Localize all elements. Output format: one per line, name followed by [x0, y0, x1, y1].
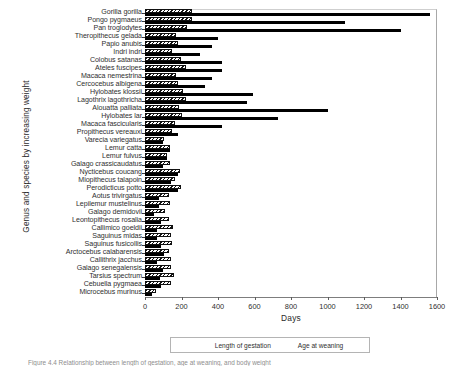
weaning-bar [145, 77, 212, 80]
weaning-bar [145, 109, 328, 112]
x-axis-tick [291, 297, 292, 300]
x-axis-tick-label: 600 [248, 302, 260, 311]
table-row: Lagothrix lagothricha [145, 97, 437, 105]
table-row: Miopithecus talapoin [145, 177, 437, 185]
weaning-bar [145, 293, 152, 296]
weaning-bar [145, 181, 171, 184]
weaning-bar [145, 277, 160, 280]
weaning-bar [145, 141, 163, 144]
x-axis-tick [364, 297, 365, 300]
weaning-bar [145, 133, 178, 136]
x-axis-title: Days [145, 313, 437, 323]
weaning-bar [145, 29, 401, 32]
x-axis-tick-label: 1200 [356, 302, 372, 311]
weaning-bar [145, 13, 430, 16]
x-axis-tick-label: 1600 [429, 302, 445, 311]
x-axis-tick [218, 297, 219, 300]
table-row: Leontopithecus rosalia [145, 217, 437, 225]
weaning-bar [145, 101, 247, 104]
x-axis-tick [182, 297, 183, 300]
solid-black-swatch [280, 342, 295, 349]
x-axis-tick-label: 800 [285, 302, 297, 311]
table-row: Cebuella pygmaea [145, 281, 437, 289]
table-row: Papio anubis [145, 41, 437, 49]
bar-rows: Gorilla gorillaPongo pygmaeusPan troglod… [145, 9, 437, 297]
x-axis-tick [255, 297, 256, 300]
table-row: Aotus trivirgatus [145, 193, 437, 201]
x-axis-tick-label: 200 [175, 302, 187, 311]
weaning-bar [145, 237, 157, 240]
table-row: Callithrix jacchus [145, 257, 437, 265]
weaning-bar [145, 37, 218, 40]
weaning-bar [145, 21, 345, 24]
x-axis-tick-label: 0 [143, 302, 147, 311]
table-row: Tarsius spectrum [145, 273, 437, 281]
plot-area: Gorilla gorillaPongo pygmaeusPan troglod… [145, 9, 437, 297]
table-row: Callimico goeldii [145, 225, 437, 233]
table-row: Lepilemur mustelinus [145, 201, 437, 209]
table-row: Ateles fuscipes [145, 65, 437, 73]
table-row: Colobus satanas [145, 57, 437, 65]
table-row: Pongo pygmaeus [145, 17, 437, 25]
legend-label: Age at weaning [298, 342, 343, 349]
x-axis-tick [401, 297, 402, 300]
table-row: Gorilla gorilla [145, 9, 437, 17]
weaning-bar [145, 205, 159, 208]
table-row: Galago senegalensis [145, 265, 437, 273]
legend-label: Length of gestation [215, 342, 271, 349]
y-axis-title: Genus and species by increasing weight [22, 57, 31, 257]
table-row: Theropithecus gelada [145, 33, 437, 41]
table-row: Hylobates klossii [145, 89, 437, 97]
x-axis-tick [437, 297, 438, 300]
table-row: Cercocebus albigena [145, 81, 437, 89]
weaning-bar [145, 125, 222, 128]
weaning-bar [145, 53, 200, 56]
weaning-bar [145, 261, 157, 264]
x-axis-tick [328, 297, 329, 300]
table-row: Macaca nemestrina [145, 73, 437, 81]
hatched-swatch [197, 342, 212, 349]
table-row: Galago crassicaudatus [145, 161, 437, 169]
table-row: Propithecus vereauxi [145, 129, 437, 137]
weaning-bar [145, 117, 278, 120]
table-row: Lemur catta [145, 145, 437, 153]
table-row: Macaca fascicularis [145, 121, 437, 129]
table-row: Perodicticus potto [145, 185, 437, 193]
weaning-bar [145, 165, 163, 168]
legend-item: Length of gestation [197, 342, 271, 349]
weaning-bar [145, 213, 154, 216]
table-row: Indri indri [145, 49, 437, 57]
y-axis-tick-label: Microcebus murinus [79, 289, 142, 296]
legend-item: Age at weaning [280, 342, 343, 349]
figure-container: Genus and species by increasing weight G… [0, 0, 456, 368]
table-row: Arctocebus calabarensis [145, 249, 437, 257]
table-row: Hylobates lar [145, 113, 437, 121]
weaning-bar [145, 269, 163, 272]
weaning-bar [145, 93, 253, 96]
x-axis-tick-label: 1400 [392, 302, 408, 311]
weaning-bar [145, 61, 222, 64]
weaning-bar [145, 285, 161, 288]
weaning-bar [145, 253, 164, 256]
x-axis-tick-label: 400 [212, 302, 224, 311]
table-row: Nycticebus coucang [145, 169, 437, 177]
weaning-bar [145, 221, 161, 224]
weaning-bar [145, 189, 178, 192]
weaning-bar [145, 173, 178, 176]
table-row: Varecia variegatus [145, 137, 437, 145]
weaning-bar [145, 69, 222, 72]
weaning-bar [145, 245, 161, 248]
chart-legend: Length of gestationAge at weaning [170, 337, 370, 353]
weaning-bar [145, 157, 167, 160]
x-axis-tick [145, 297, 146, 300]
table-row: Saguinus fusicollis [145, 241, 437, 249]
weaning-bar [145, 229, 157, 232]
table-row: Saguinus midas [145, 233, 437, 241]
weaning-bar [145, 45, 212, 48]
x-axis-tick-label: 1000 [319, 302, 335, 311]
table-row: Alouatta palliata [145, 105, 437, 113]
weaning-bar [145, 197, 159, 200]
weaning-bar [145, 149, 170, 152]
table-row: Microcebus murinus [145, 289, 437, 297]
table-row: Lemur fulvus [145, 153, 437, 161]
